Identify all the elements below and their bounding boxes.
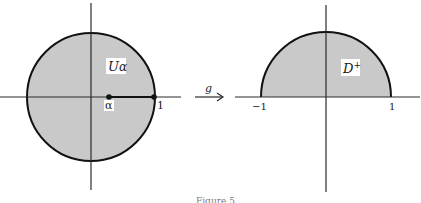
map-arrow: g bbox=[195, 82, 223, 101]
right-panel: D+ −1 1 bbox=[235, 5, 420, 192]
minus-one-tick-label: −1 bbox=[252, 101, 267, 112]
map-g-label: g bbox=[205, 82, 212, 95]
point-one bbox=[151, 94, 157, 100]
u-alpha-label: Uα bbox=[108, 59, 127, 74]
left-panel: Uα α 1 bbox=[0, 3, 181, 190]
one-tick-label: 1 bbox=[389, 101, 395, 112]
alpha-label: α bbox=[105, 99, 113, 112]
one-label-left: 1 bbox=[157, 99, 164, 112]
figure-caption: Figure 5 bbox=[196, 196, 235, 203]
conformal-map-diagram: Uα α 1 g D+ −1 1 Figure 5 bbox=[0, 0, 421, 203]
